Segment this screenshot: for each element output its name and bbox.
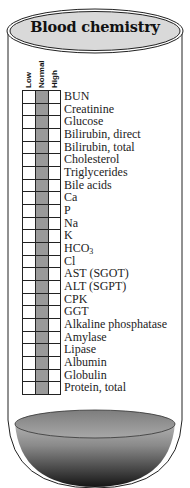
test-label: Protein, total xyxy=(64,381,184,394)
checkbox-high[interactable] xyxy=(48,180,60,192)
grid-row xyxy=(23,180,60,193)
grid-row xyxy=(23,230,60,243)
checkbox-low[interactable] xyxy=(23,218,35,230)
checkbox-normal[interactable] xyxy=(35,344,47,356)
grid-row xyxy=(23,129,60,142)
checkbox-low[interactable] xyxy=(23,268,35,280)
checkbox-low[interactable] xyxy=(23,294,35,306)
checkbox-low[interactable] xyxy=(23,357,35,369)
checkbox-low[interactable] xyxy=(23,256,35,268)
checkbox-low[interactable] xyxy=(23,129,35,141)
checkbox-high[interactable] xyxy=(48,344,60,356)
checkbox-high[interactable] xyxy=(48,332,60,344)
checkbox-normal[interactable] xyxy=(35,205,47,217)
test-label-base: HCO xyxy=(64,241,89,255)
checkbox-normal[interactable] xyxy=(35,256,47,268)
test-label: Triglycerides xyxy=(64,166,184,179)
grid-row xyxy=(23,243,60,256)
test-label: Bilirubin, direct xyxy=(64,128,184,141)
checkbox-high[interactable] xyxy=(48,382,60,394)
checkbox-normal[interactable] xyxy=(35,91,47,103)
checkbox-low[interactable] xyxy=(23,116,35,128)
test-label: Bile acids xyxy=(64,179,184,192)
checkbox-high[interactable] xyxy=(48,91,60,103)
checkbox-normal[interactable] xyxy=(35,192,47,204)
grid-row xyxy=(23,319,60,332)
checkbox-low[interactable] xyxy=(23,370,35,382)
checkbox-normal[interactable] xyxy=(35,154,47,166)
checkbox-high[interactable] xyxy=(48,218,60,230)
blood-surface xyxy=(15,410,175,438)
checkbox-high[interactable] xyxy=(48,104,60,116)
checkbox-normal[interactable] xyxy=(35,294,47,306)
grid-row xyxy=(23,142,60,155)
checkbox-normal[interactable] xyxy=(35,243,47,255)
checkbox-normal[interactable] xyxy=(35,218,47,230)
test-label: Na xyxy=(64,217,184,230)
blood-chemistry-tube-diagram: Blood chemistry Low Normal High BUNCreat… xyxy=(0,0,190,488)
checkbox-low[interactable] xyxy=(23,230,35,242)
checkbox-low[interactable] xyxy=(23,205,35,217)
checkbox-normal[interactable] xyxy=(35,116,47,128)
grid-row xyxy=(23,104,60,117)
checkbox-normal[interactable] xyxy=(35,230,47,242)
checkbox-low[interactable] xyxy=(23,142,35,154)
test-label: P xyxy=(64,204,184,217)
checkbox-low[interactable] xyxy=(23,167,35,179)
test-label: Alkaline phosphatase xyxy=(64,318,184,331)
checkbox-normal[interactable] xyxy=(35,268,47,280)
checkbox-high[interactable] xyxy=(48,319,60,331)
checkbox-high[interactable] xyxy=(48,294,60,306)
checkbox-low[interactable] xyxy=(23,306,35,318)
grid-row xyxy=(23,281,60,294)
checkbox-low[interactable] xyxy=(23,180,35,192)
checkbox-high[interactable] xyxy=(48,116,60,128)
checkbox-high[interactable] xyxy=(48,142,60,154)
checkbox-normal[interactable] xyxy=(35,104,47,116)
grid-row xyxy=(23,294,60,307)
checkbox-high[interactable] xyxy=(48,268,60,280)
checkbox-low[interactable] xyxy=(23,91,35,103)
checkbox-high[interactable] xyxy=(48,192,60,204)
checkbox-high[interactable] xyxy=(48,370,60,382)
test-label: Albumin xyxy=(64,356,184,369)
checkbox-low[interactable] xyxy=(23,382,35,394)
checkbox-normal[interactable] xyxy=(35,180,47,192)
checkbox-low[interactable] xyxy=(23,192,35,204)
checkbox-normal[interactable] xyxy=(35,357,47,369)
checkbox-normal[interactable] xyxy=(35,306,47,318)
checkbox-high[interactable] xyxy=(48,306,60,318)
column-header-normal: Normal xyxy=(35,62,48,88)
checkbox-low[interactable] xyxy=(23,281,35,293)
checkbox-low[interactable] xyxy=(23,332,35,344)
checkbox-normal[interactable] xyxy=(35,281,47,293)
checkbox-low[interactable] xyxy=(23,344,35,356)
checkbox-low[interactable] xyxy=(23,243,35,255)
diagram-title: Blood chemistry xyxy=(20,18,170,35)
checkbox-low[interactable] xyxy=(23,319,35,331)
checkbox-high[interactable] xyxy=(48,230,60,242)
grid-row xyxy=(23,218,60,231)
checkbox-normal[interactable] xyxy=(35,129,47,141)
test-label: HCO3 xyxy=(64,242,184,255)
checkbox-high[interactable] xyxy=(48,243,60,255)
checkbox-high[interactable] xyxy=(48,129,60,141)
checkbox-high[interactable] xyxy=(48,281,60,293)
checkbox-high[interactable] xyxy=(48,167,60,179)
checkbox-normal[interactable] xyxy=(35,370,47,382)
checkbox-normal[interactable] xyxy=(35,319,47,331)
checkbox-normal[interactable] xyxy=(35,332,47,344)
grid-row xyxy=(23,382,60,395)
checkbox-high[interactable] xyxy=(48,256,60,268)
grid-row xyxy=(23,370,60,383)
checkbox-high[interactable] xyxy=(48,205,60,217)
checkbox-normal[interactable] xyxy=(35,142,47,154)
column-header-low: Low xyxy=(22,62,35,88)
checkbox-normal[interactable] xyxy=(35,382,47,394)
checkbox-high[interactable] xyxy=(48,154,60,166)
checkbox-low[interactable] xyxy=(23,104,35,116)
checkbox-normal[interactable] xyxy=(35,167,47,179)
checkbox-high[interactable] xyxy=(48,357,60,369)
test-label: Ca xyxy=(64,191,184,204)
checkbox-low[interactable] xyxy=(23,154,35,166)
